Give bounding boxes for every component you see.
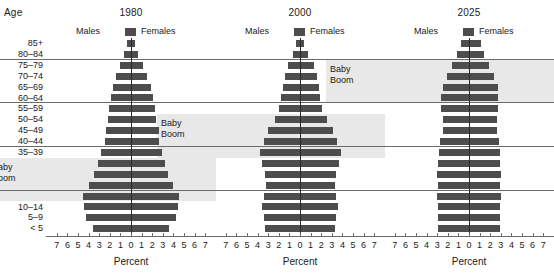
age-label-7579: 75–79 [18,61,43,70]
bar-male [438,182,469,189]
bar-male [438,203,469,210]
bar-female [469,225,500,232]
x-axis-tick-label: 7 [52,241,62,250]
bar-female [131,84,151,91]
x-axis-tick-label: 4 [84,241,94,250]
x-axis-tick-label: 3 [263,241,273,250]
bar-male [438,160,469,167]
bar-male [288,62,300,69]
baby-boom-band [326,60,554,104]
x-axis-tick [416,233,417,236]
bar-female [300,105,322,112]
bar-female [300,51,308,58]
age-label-7074: 70–74 [18,72,43,81]
age-label-6569: 65–69 [18,83,43,92]
age-group-labels: 85+80–8475–7970–7465–6960–6455–5950–5445… [0,0,46,277]
population-pyramid-figure: Age 85+80–8475–7970–7465–6960–6455–5950–… [0,0,554,277]
bar-female [131,182,173,189]
x-axis-tick-label: 2 [147,241,157,250]
x-axis-tick-label: 6 [190,241,200,250]
bar-female [469,84,498,91]
age-label-5559: 55–59 [18,104,43,113]
bar-female [300,214,336,221]
bar-male [265,171,300,178]
x-axis-tick-label: 0 [295,241,305,250]
bar-male [93,225,131,232]
bar-male [443,116,470,123]
bar-female [469,94,498,101]
bar-male [116,73,131,80]
x-axis-tick [279,233,280,236]
bar-female [131,203,178,210]
bar-male [293,51,300,58]
gridline [0,190,554,191]
age-label-4044: 40–44 [18,137,43,146]
x-axis-tick [289,233,290,236]
x-axis-tick [522,233,523,236]
bar-male [84,203,131,210]
bar-male [89,182,131,189]
x-axis-tick [173,233,174,236]
x-axis-line [46,236,216,237]
x-axis-tick [342,233,343,236]
bar-female [300,149,341,156]
x-axis-tick [332,233,333,236]
x-axis-tick-label: 6 [400,241,410,250]
x-axis-tick-label: 1 [475,241,485,250]
bar-female [131,73,147,80]
bar-female [469,193,501,200]
bar-male [457,51,469,58]
bar-female [300,84,319,91]
bar-female [300,160,339,167]
bar-male [260,149,300,156]
bar-male [264,193,300,200]
x-axis-tick [533,233,534,236]
baby-boom-label-line1: Baby [0,162,13,172]
x-axis-tick-label: 3 [158,241,168,250]
x-axis-tick-label: 5 [73,241,83,250]
legend-females-label: Females [310,26,345,36]
bar-male [461,40,469,47]
x-axis-tick-label: 4 [253,241,263,250]
x-axis-tick-label: 4 [337,241,347,250]
x-axis-tick [99,233,100,236]
x-axis-tick-label: 2 [274,241,284,250]
bar-male [98,160,131,167]
x-axis-tick-label: 7 [221,241,231,250]
x-axis-tick-label: 5 [348,241,358,250]
bar-female [469,138,499,145]
x-axis-tick-label: 6 [528,241,538,250]
panel-title: 1980 [46,7,216,18]
bar-male [86,214,131,221]
x-axis-line [384,236,554,237]
bar-male [268,127,300,134]
x-axis-tick-label: 5 [411,241,421,250]
x-axis-tick [458,233,459,236]
bar-male [83,193,131,200]
bar-male [120,62,131,69]
x-axis-tick-label: 1 [284,241,294,250]
bar-female [131,193,179,200]
x-axis-tick-label: 3 [496,241,506,250]
x-axis-tick [67,233,68,236]
baby-boom-label-line2: Boom [330,75,354,85]
bar-male [264,214,300,221]
bar-female [131,51,138,58]
x-axis-tick [480,233,481,236]
bar-male [113,84,131,91]
x-axis-tick [184,233,185,236]
legend: MalesFemales [215,26,385,38]
bar-male [279,105,300,112]
x-axis-tick [501,233,502,236]
x-axis-tick-label: 2 [316,241,326,250]
x-axis-tick-label: 3 [327,241,337,250]
bar-male [441,105,469,112]
x-axis-tick-label: 4 [168,241,178,250]
gridline [0,59,554,60]
panel-title: 2025 [384,7,554,18]
x-axis-tick-label: 4 [422,241,432,250]
legend-males-label: Males [76,26,100,36]
baby-boom-label-line1: Baby [330,64,351,74]
bar-female [300,138,337,145]
bar-male [438,214,469,221]
